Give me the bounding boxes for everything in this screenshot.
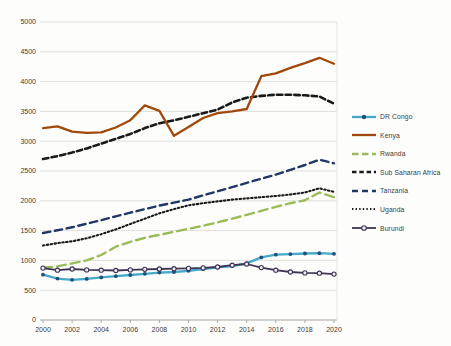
series-marker-dr-congo bbox=[318, 251, 322, 255]
legend-swatch-icon bbox=[351, 204, 377, 214]
legend-swatch-icon bbox=[351, 130, 377, 140]
series-marker-dr-congo bbox=[274, 253, 278, 257]
legend-swatch-icon bbox=[351, 149, 377, 159]
series-marker-burundi bbox=[303, 271, 307, 275]
series-marker-dr-congo bbox=[41, 273, 45, 277]
legend-swatch-icon bbox=[351, 186, 377, 196]
y-tick-label: 4000 bbox=[20, 78, 36, 85]
legend-label: Sub Saharan Africa bbox=[377, 169, 440, 176]
y-tick-label: 500 bbox=[24, 287, 36, 294]
series-marker-burundi bbox=[201, 266, 205, 270]
sub-saharan-africa-line-sample-icon bbox=[351, 167, 377, 177]
legend-item-kenya: Kenya bbox=[351, 130, 440, 141]
series-line-kenya bbox=[43, 58, 334, 136]
series-marker-burundi bbox=[41, 266, 45, 270]
legend-swatch-icon bbox=[351, 167, 377, 177]
legend-item-uganda: Uganda bbox=[351, 204, 440, 215]
series-marker-dr-congo bbox=[114, 274, 118, 278]
series-marker-burundi bbox=[259, 266, 263, 270]
legend-item-sub-saharan-africa: Sub Saharan Africa bbox=[351, 167, 440, 178]
series-marker-burundi bbox=[288, 270, 292, 274]
legend-swatch-icon bbox=[351, 112, 377, 122]
kenya-line-sample-icon bbox=[351, 130, 377, 140]
y-tick-label: 5000 bbox=[20, 18, 36, 25]
x-tick-label: 2016 bbox=[268, 326, 284, 333]
series-marker-burundi bbox=[216, 265, 220, 269]
x-tick-label: 2018 bbox=[297, 326, 313, 333]
series-marker-dr-congo bbox=[259, 256, 263, 260]
legend-label: DR Congo bbox=[377, 113, 413, 120]
chart: 0500100015002000250030003500400045005000… bbox=[0, 0, 451, 346]
x-tick-label: 2010 bbox=[181, 326, 197, 333]
x-tick-label: 2020 bbox=[326, 326, 342, 333]
legend-label: Burundi bbox=[377, 225, 404, 232]
series-marker-burundi bbox=[157, 267, 161, 271]
x-tick-label: 2002 bbox=[64, 326, 80, 333]
series-marker-burundi bbox=[128, 268, 132, 272]
y-tick-label: 2500 bbox=[20, 167, 36, 174]
series-marker-dr-congo bbox=[303, 252, 307, 256]
series-marker-burundi bbox=[114, 268, 118, 272]
x-tick-label: 2008 bbox=[152, 326, 168, 333]
series-marker-burundi bbox=[230, 263, 234, 267]
y-tick-label: 4500 bbox=[20, 48, 36, 55]
x-tick-label: 2012 bbox=[210, 326, 226, 333]
series-marker-dr-congo bbox=[332, 252, 336, 256]
series-line-uganda bbox=[43, 188, 334, 245]
legend-item-tanzania: Tanzania bbox=[351, 185, 440, 196]
dr-congo-line-sample-icon bbox=[351, 112, 377, 122]
tanzania-line-sample-icon bbox=[351, 186, 377, 196]
series-marker-burundi bbox=[274, 268, 278, 272]
series-marker-dr-congo bbox=[289, 252, 293, 256]
series-marker-burundi bbox=[317, 271, 321, 275]
chart-legend: DR Congo Kenya Rwanda Sub Saharan Africa… bbox=[351, 111, 440, 234]
x-tick-label: 2014 bbox=[239, 326, 255, 333]
legend-label: Uganda bbox=[377, 206, 404, 213]
y-tick-label: 1500 bbox=[20, 227, 36, 234]
x-tick-label: 2004 bbox=[93, 326, 109, 333]
legend-swatch-icon bbox=[351, 223, 377, 233]
x-tick-label: 2006 bbox=[123, 326, 139, 333]
series-marker-burundi bbox=[172, 267, 176, 271]
y-tick-label: 1000 bbox=[20, 257, 36, 264]
series-marker-burundi bbox=[245, 262, 249, 266]
y-tick-label: 3500 bbox=[20, 108, 36, 115]
series-marker-burundi bbox=[99, 268, 103, 272]
series-marker-burundi bbox=[55, 268, 59, 272]
series-marker-dr-congo bbox=[70, 278, 74, 282]
series-marker-dr-congo bbox=[85, 277, 89, 281]
legend-item-rwanda: Rwanda bbox=[351, 148, 440, 159]
series-marker-burundi bbox=[143, 267, 147, 271]
y-tick-label: 2000 bbox=[20, 197, 36, 204]
series-marker-burundi bbox=[186, 266, 190, 270]
legend-item-dr-congo: DR Congo bbox=[351, 111, 440, 122]
series-line-rwanda bbox=[43, 193, 334, 268]
legend-label: Rwanda bbox=[377, 150, 406, 157]
series-marker-burundi bbox=[332, 272, 336, 276]
legend-label: Tanzania bbox=[377, 187, 408, 194]
legend-item-burundi: Burundi bbox=[351, 223, 440, 234]
legend-label: Kenya bbox=[377, 132, 400, 139]
series-marker-burundi bbox=[70, 267, 74, 271]
uganda-line-sample-icon bbox=[351, 204, 377, 214]
series-marker-dr-congo bbox=[143, 272, 147, 276]
rwanda-line-sample-icon bbox=[351, 149, 377, 159]
series-marker-dr-congo bbox=[99, 276, 103, 280]
x-tick-label: 2000 bbox=[35, 326, 51, 333]
burundi-line-sample-icon bbox=[351, 223, 377, 233]
series-marker-burundi bbox=[85, 268, 89, 272]
y-tick-label: 0 bbox=[32, 316, 36, 323]
series-marker-dr-congo bbox=[56, 277, 60, 281]
y-tick-label: 3000 bbox=[20, 138, 36, 145]
series-marker-dr-congo bbox=[128, 273, 132, 277]
